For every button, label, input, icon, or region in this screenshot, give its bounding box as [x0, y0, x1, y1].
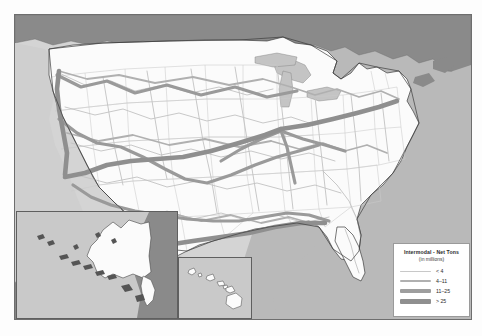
legend-label-11-25: 11–25 [436, 288, 450, 294]
map-page: Intermodal - Net Tons (in millions) < 4 … [0, 0, 482, 336]
legend-row-3: > 25 [398, 296, 465, 306]
legend-swatch-gt25 [400, 296, 431, 306]
hawaii-map-graphic [179, 258, 251, 318]
legend-subtitle: (in millions) [398, 256, 465, 263]
legend-swatch-lt4 [400, 266, 431, 276]
legend-row-2: 11–25 [398, 286, 465, 296]
legend-label-gt25: > 25 [436, 298, 446, 304]
main-map-frame[interactable]: Intermodal - Net Tons (in millions) < 4 … [14, 14, 472, 320]
hawaii-ocean [179, 258, 251, 318]
legend-row-1: 4–11 [398, 276, 465, 286]
map-legend: Intermodal - Net Tons (in millions) < 4 … [393, 243, 470, 317]
legend-title: Intermodal - Net Tons [398, 249, 465, 256]
alaska-inset[interactable] [16, 211, 178, 319]
legend-label-lt4: < 4 [436, 268, 443, 274]
legend-swatch-4-11 [400, 276, 431, 286]
alaska-map-graphic [17, 212, 177, 318]
legend-row-0: < 4 [398, 266, 465, 276]
hawaii-inset[interactable] [178, 257, 252, 319]
legend-swatch-11-25 [400, 286, 431, 296]
legend-label-4-11: 4–11 [436, 278, 447, 284]
